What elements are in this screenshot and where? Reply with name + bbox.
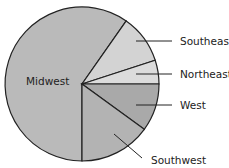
label-west: West	[180, 99, 206, 111]
label-southwest: Southwest	[151, 154, 206, 166]
label-midwest: Midwest	[26, 75, 69, 87]
label-northeast: Northeast	[180, 68, 229, 80]
label-southeast: Southeast	[180, 35, 229, 47]
pie-chart: Midwest Southeast Northeast West Southwe…	[0, 0, 229, 168]
